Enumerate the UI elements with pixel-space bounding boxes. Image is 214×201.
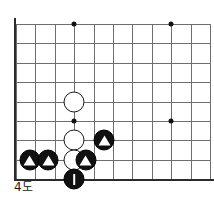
star-point [72,22,77,27]
stone-white[interactable] [64,91,85,112]
grid-line-vertical [152,24,153,179]
star-point [169,119,174,124]
grid-line-vertical [113,24,114,179]
star-point [169,22,174,27]
stone-black-triangle[interactable] [38,149,59,170]
stone-black-triangle[interactable] [75,149,96,170]
stone-white[interactable] [64,130,85,151]
figure-caption: 4도 [14,180,33,194]
go-board[interactable] [0,0,214,185]
go-diagram: 4도 [0,0,214,201]
grid-line-vertical [132,24,133,179]
stone-black-triangle[interactable] [94,130,115,151]
grid-line-vertical [16,24,17,179]
board-edge-left [14,18,16,181]
board-edge-bottom [14,179,214,181]
grid-line-vertical [171,24,172,179]
triangle-marker-icon [24,155,36,165]
triangle-marker-icon [42,155,54,165]
move-number-marker [73,174,76,185]
triangle-marker-icon [98,136,110,146]
star-point [72,119,77,124]
grid-line-vertical [210,24,211,179]
stone-black-one[interactable] [64,169,85,190]
triangle-marker-icon [80,155,92,165]
grid-line-vertical [191,24,192,179]
